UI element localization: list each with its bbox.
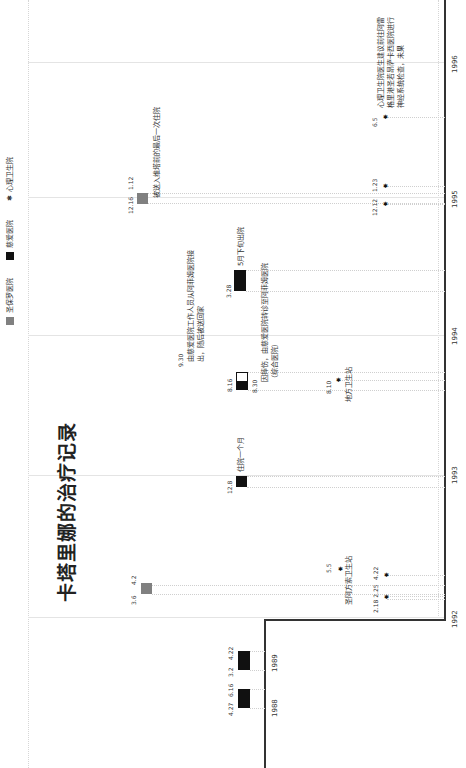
event-bar-1988 <box>238 689 250 708</box>
year-label-1993: 1993 <box>452 466 459 484</box>
gridline-1995 <box>28 197 445 198</box>
event-note: 地方卫生站 <box>344 367 354 402</box>
event-note: 5月下旬出院 <box>236 227 246 266</box>
asterisk-icon: ✱ <box>6 195 14 201</box>
event-note: 住院一个月 <box>236 437 246 472</box>
legend-item-caridade: 慈爱医院 <box>6 220 14 260</box>
legend-item-psych: ✱心理卫生院 <box>6 157 14 201</box>
tick <box>152 585 445 586</box>
tick <box>387 575 445 576</box>
timeline-axis-step <box>264 619 446 621</box>
event-dates: 2.18 2.25 <box>373 584 379 613</box>
tick <box>247 476 445 477</box>
event-date-end: 4.2 <box>131 575 137 585</box>
event-date: 8.16 <box>227 379 233 392</box>
page-title: 卡塔里娜的治疗记录 <box>58 422 77 602</box>
asterisk-icon: ✱ <box>384 594 389 600</box>
tick <box>250 689 265 690</box>
asterisk-icon: ✱ <box>383 183 388 189</box>
tick <box>250 670 265 671</box>
event-date-end: 6.16 <box>228 684 234 697</box>
tick <box>247 487 445 488</box>
tick <box>148 193 445 194</box>
event-bar-1992 <box>141 583 152 594</box>
event-date: 8.30 <box>252 380 258 393</box>
asterisk-icon: ✱ <box>384 572 389 578</box>
asterisk-icon: ✱ <box>338 566 343 572</box>
event-note: 由慈爱医院工作人员从阿菲姆医院接出，随后被送回家 <box>186 247 206 362</box>
event-date-start: 4.27 <box>228 703 234 716</box>
year-label-1996: 1996 <box>452 55 459 73</box>
tick <box>387 599 445 600</box>
event-date-end: 1.12 <box>128 177 134 190</box>
event-date: 12.12 <box>372 199 378 216</box>
gridline-1992 <box>28 617 445 618</box>
guide-line <box>28 0 29 768</box>
event-date-start: 3.2 <box>228 667 234 677</box>
event-bar-1989 <box>238 651 250 670</box>
tick <box>386 117 445 118</box>
tick <box>246 291 445 292</box>
tick <box>250 708 265 709</box>
event-note: 圣阿方索卫生站 <box>344 556 354 605</box>
event-bar-1995-sao-paulo <box>137 193 148 204</box>
event-date: 4.22 <box>373 567 379 580</box>
asterisk-icon: ✱ <box>336 377 341 383</box>
tick <box>250 651 265 652</box>
event-date: 12.8 <box>227 481 233 494</box>
tick <box>246 270 445 271</box>
timeline-axis-lower <box>264 619 266 768</box>
event-date: 8.10 <box>326 381 332 394</box>
event-date-start: 3.6 <box>131 595 137 605</box>
tick <box>386 204 445 205</box>
event-bar-1995 <box>234 270 246 291</box>
legend-item-sao-paulo: 圣保罗医院 <box>6 278 14 325</box>
event-note: 心理卫生院医生建议前往阿雷格里港圣若昂萨卡西医院进行神经系统检查，未果 <box>376 16 406 108</box>
year-label-1989: 1989 <box>272 654 279 672</box>
event-date: 9.30 <box>178 354 184 367</box>
timeline-axis-upper <box>444 0 446 621</box>
event-bar-1994 <box>236 372 248 390</box>
gridline-1994 <box>28 335 445 336</box>
event-date-end: 4.22 <box>228 647 234 660</box>
year-label-1994: 1994 <box>452 327 459 345</box>
tick <box>152 594 445 595</box>
black-square-icon <box>6 252 14 260</box>
event-date: 3.28 <box>226 285 232 298</box>
asterisk-icon: ✱ <box>383 114 388 120</box>
event-note: 因摔伤，由慈爱医院转诊至阿菲姆医院（综合医院） <box>260 254 280 382</box>
year-label-1988: 1988 <box>272 699 279 717</box>
asterisk-icon: ✱ <box>383 201 388 207</box>
event-date: 5.5 <box>326 563 332 573</box>
guide-line <box>438 0 439 620</box>
year-label-1992: 1992 <box>452 610 459 628</box>
event-date: 1.23 <box>372 179 378 192</box>
tick <box>387 596 445 597</box>
event-date: 6.5 <box>372 117 378 127</box>
event-date-start: 12.16 <box>128 197 134 214</box>
tick <box>338 380 445 381</box>
gray-square-icon <box>6 317 14 325</box>
event-note: 被送入维塔前的最后一次住院 <box>152 107 162 198</box>
event-bar-1993 <box>236 476 247 487</box>
legend: 圣保罗医院 慈爱医院 ✱心理卫生院 <box>6 157 14 325</box>
tick <box>386 186 445 187</box>
year-label-1995: 1995 <box>452 190 459 208</box>
